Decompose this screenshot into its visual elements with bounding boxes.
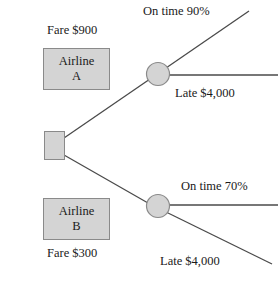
decision-node[interactable] xyxy=(44,131,65,160)
alternative-box-airline-b-line2: B xyxy=(72,219,80,234)
outcome-line-a-on-time xyxy=(166,11,249,68)
alternative-box-airline-a-line2: A xyxy=(72,69,81,84)
alternative-box-airline-a-line1: Airline xyxy=(59,54,94,69)
alternative-box-airline-b[interactable]: Airline B xyxy=(43,198,110,240)
outcome-label-b-late: Late $4,000 xyxy=(160,255,220,269)
fare-label-airline-b: Fare $300 xyxy=(47,247,97,261)
alternative-box-airline-b-line1: Airline xyxy=(59,204,94,219)
fare-label-airline-a: Fare $900 xyxy=(47,24,97,38)
outcome-label-b-on-time: On time 70% xyxy=(181,180,248,194)
branch-line-airline-b xyxy=(64,155,148,203)
outcome-label-a-on-time: On time 90% xyxy=(143,5,210,19)
tree-branches xyxy=(0,0,278,283)
outcome-label-a-late: Late $4,000 xyxy=(175,87,235,101)
chance-node-b xyxy=(147,195,170,218)
outcome-label-a-late-text: Late $4,000 xyxy=(175,86,235,100)
chance-node-a xyxy=(147,63,170,86)
alternative-box-airline-a[interactable]: Airline A xyxy=(43,48,110,90)
decision-tree-diagram: Fare $900 Airline A On time 90% Late $4,… xyxy=(0,0,278,283)
